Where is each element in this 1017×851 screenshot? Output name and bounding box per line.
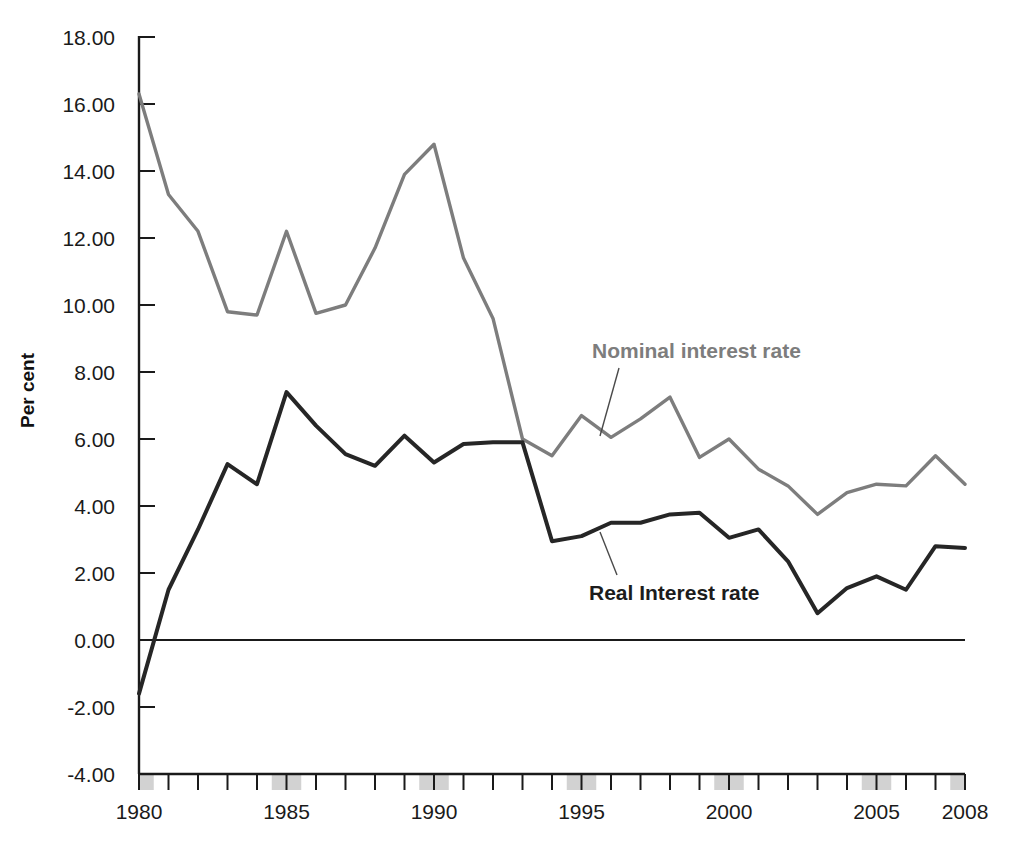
interest-rate-line-chart: 18.0016.0014.0012.0010.008.006.004.002.0…	[0, 0, 1017, 851]
annotation-real-interest-rate: Real Interest rate	[589, 581, 759, 604]
y-tick-label-5: 8.00	[74, 361, 115, 384]
x-tick-label-1990: 1990	[411, 800, 458, 823]
x-tick-label-1995: 1995	[558, 800, 605, 823]
year-band-2008	[950, 774, 965, 790]
annotation-nominal-interest-rate: Nominal interest rate	[592, 339, 801, 362]
y-axis-title: Per cent	[17, 352, 38, 428]
year-band-1980	[139, 774, 154, 790]
y-tick-label-0: 18.00	[62, 26, 115, 49]
y-tick-label-7: 4.00	[74, 495, 115, 518]
x-tick-label-2005: 2005	[853, 800, 900, 823]
y-tick-label-6: 6.00	[74, 428, 115, 451]
x-tick-label-1980: 1980	[116, 800, 163, 823]
x-tick-label-2000: 2000	[706, 800, 753, 823]
chart-figure: 18.0016.0014.0012.0010.008.006.004.002.0…	[0, 0, 1017, 851]
y-tick-label-9: 0.00	[74, 629, 115, 652]
x-tick-label-1985: 1985	[263, 800, 310, 823]
y-tick-label-1: 16.00	[62, 93, 115, 116]
chart-background	[0, 0, 1017, 851]
y-tick-label-10: -2.00	[67, 696, 115, 719]
x-tick-label-2008: 2008	[942, 800, 989, 823]
y-tick-label-3: 12.00	[62, 227, 115, 250]
y-tick-label-4: 10.00	[62, 294, 115, 317]
y-tick-label-8: 2.00	[74, 562, 115, 585]
y-tick-label-2: 14.00	[62, 160, 115, 183]
y-tick-label-11: -4.00	[67, 763, 115, 786]
